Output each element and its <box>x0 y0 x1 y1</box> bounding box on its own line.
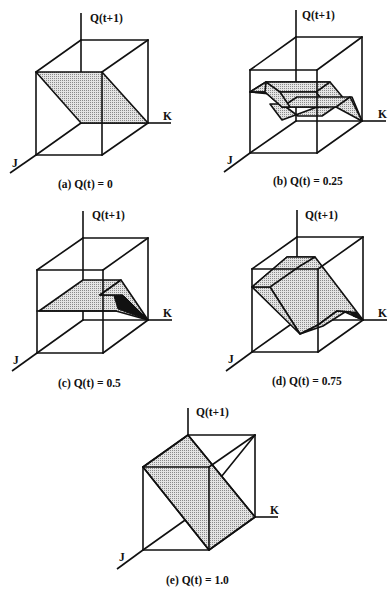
surface-a <box>36 72 148 123</box>
k-label-e: K <box>270 504 279 516</box>
j-label-e: J <box>119 551 125 563</box>
k-label-d: K <box>378 307 387 319</box>
caption-d: (d) Q(t) = 0.75 <box>272 375 342 388</box>
caption-a: (a) Q(t) = 0 <box>58 178 113 191</box>
panel-e: Q(t+1) K J (e) Q(t) = 1.0 <box>117 406 279 587</box>
q-label-a: Q(t+1) <box>90 12 123 25</box>
k-label-c: K <box>163 307 172 319</box>
j-label-b: J <box>227 154 233 166</box>
shadow-d <box>350 312 363 320</box>
q-label-e: Q(t+1) <box>196 406 229 419</box>
caption-b: (b) Q(t) = 0.25 <box>273 175 343 188</box>
j-label-a: J <box>12 157 18 169</box>
panel-b: Q(t+1) K J (b) Q(t) = 0.25 <box>224 9 387 188</box>
q-label-c: Q(t+1) <box>92 209 125 222</box>
caption-e: (e) Q(t) = 1.0 <box>166 574 229 587</box>
caption-c: (c) Q(t) = 0.5 <box>58 377 121 390</box>
jk-flipflop-surface-figure: Q(t+1) K J (a) Q(t) = 0 <box>0 0 392 595</box>
surface-c <box>39 280 148 320</box>
k-label-a: K <box>163 110 172 122</box>
panel-c: Q(t+1) K J (c) Q(t) = 0.5 <box>12 209 172 390</box>
q-label-d: Q(t+1) <box>305 209 338 222</box>
k-label-b: K <box>378 108 387 120</box>
j-label-d: J <box>228 353 234 365</box>
surface-b <box>250 82 362 121</box>
j-label-c: J <box>13 354 19 366</box>
q-label-b: Q(t+1) <box>302 9 335 22</box>
panel-d: Q(t+1) K J (d) Q(t) = 0.75 <box>226 209 387 388</box>
panel-a: Q(t+1) K J (a) Q(t) = 0 <box>10 12 172 191</box>
surface-e <box>143 435 255 550</box>
